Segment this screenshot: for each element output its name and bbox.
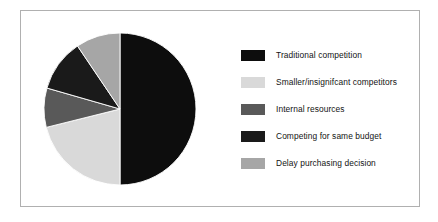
legend-swatch-icon bbox=[241, 50, 265, 61]
legend-item-label: Traditional competition bbox=[276, 50, 362, 61]
legend-swatch-icon bbox=[241, 77, 265, 88]
legend-item-label: Smaller/insignifcant competitors bbox=[276, 77, 397, 88]
pie-slice[interactable] bbox=[120, 33, 196, 185]
chart-frame-border: Traditional competition Smaller/insignif… bbox=[20, 10, 420, 207]
legend-item[interactable]: Competing for same budget bbox=[241, 123, 417, 150]
legend-swatch-icon bbox=[241, 158, 265, 169]
legend-item[interactable]: Smaller/insignifcant competitors bbox=[241, 69, 417, 96]
legend-item[interactable]: Traditional competition bbox=[241, 42, 417, 69]
pie-chart-svg bbox=[35, 19, 205, 199]
chart-legend: Traditional competition Smaller/insignif… bbox=[241, 42, 417, 177]
pie-chart bbox=[35, 19, 205, 199]
legend-item[interactable]: Internal resources bbox=[241, 96, 417, 123]
figure-root: Traditional competition Smaller/insignif… bbox=[0, 0, 438, 222]
legend-swatch-icon bbox=[241, 104, 265, 115]
legend-item-label: Internal resources bbox=[276, 104, 345, 115]
legend-item[interactable]: Delay purchasing decision bbox=[241, 150, 417, 177]
legend-swatch-icon bbox=[241, 131, 265, 142]
legend-item-label: Delay purchasing decision bbox=[276, 158, 376, 169]
legend-item-label: Competing for same budget bbox=[276, 131, 381, 142]
